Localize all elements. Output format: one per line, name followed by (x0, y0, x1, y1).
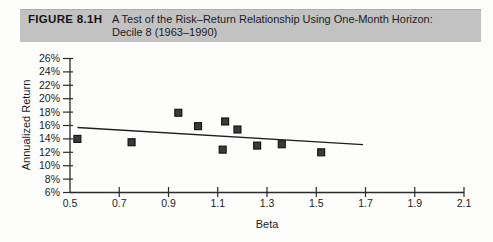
data-point (175, 109, 182, 116)
x-tick-label: 1.3 (260, 197, 275, 209)
y-tick-label: 18% (39, 106, 60, 118)
y-tick-label: 6% (45, 186, 60, 198)
data-point (219, 146, 226, 153)
x-tick-label: 0.5 (63, 197, 78, 209)
y-tick-label: 14% (39, 132, 60, 144)
x-tick-label: 1.5 (309, 197, 324, 209)
data-point (254, 142, 261, 149)
data-point (318, 149, 325, 156)
figure-title: A Test of the Risk–Return Relationship U… (112, 12, 433, 40)
figure-number-label: FIGURE 8.1H (28, 12, 112, 26)
y-tick-label: 8% (45, 173, 60, 185)
data-point (74, 135, 81, 142)
data-point (222, 118, 229, 125)
figure-title-line2: Decile 8 (1963–1990) (112, 26, 433, 40)
data-point (195, 123, 202, 130)
y-tick-label: 10% (39, 159, 60, 171)
data-point (128, 139, 135, 146)
data-point (234, 126, 241, 133)
y-tick-label: 20% (39, 92, 60, 104)
y-tick-label: 22% (39, 79, 60, 91)
y-tick-label: 24% (39, 65, 60, 77)
scatter-chart: 6%8%10%12%14%16%18%20%22%24%26%0.50.70.9… (0, 42, 493, 242)
y-axis-title: Annualized Return (20, 80, 32, 171)
x-tick-label: 0.9 (161, 197, 176, 209)
axes (70, 59, 464, 193)
x-tick-label: 1.7 (358, 197, 373, 209)
y-tick-label: 16% (39, 119, 60, 131)
x-tick-label: 2.1 (457, 197, 472, 209)
data-point (278, 141, 285, 148)
x-tick-label: 1.9 (407, 197, 422, 209)
figure-header: FIGURE 8.1H A Test of the Risk–Return Re… (20, 9, 481, 42)
chart-canvas: 6%8%10%12%14%16%18%20%22%24%26%0.50.70.9… (0, 42, 493, 242)
y-tick-label: 26% (39, 52, 60, 64)
x-tick-label: 0.7 (112, 197, 127, 209)
x-axis-title: Beta (256, 218, 280, 230)
data-points (74, 109, 325, 156)
trend-line (77, 128, 363, 145)
y-tick-label: 12% (39, 146, 60, 158)
x-tick-label: 1.1 (210, 197, 225, 209)
figure-title-line1: A Test of the Risk–Return Relationship U… (112, 13, 433, 27)
